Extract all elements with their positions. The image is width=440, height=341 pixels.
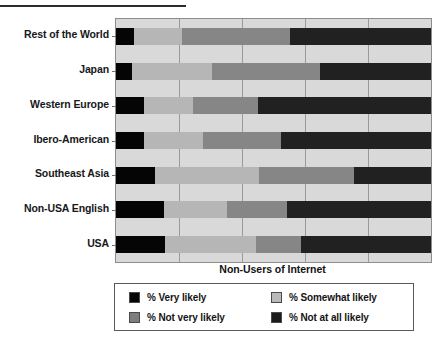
stacked-bar-chart-figure: Rest of the WorldJapanWestern EuropeIber… — [0, 0, 440, 341]
bar-segment — [155, 167, 259, 184]
bar-segment — [116, 132, 144, 149]
legend-label: % Somewhat likely — [289, 292, 377, 303]
bar-segment — [281, 132, 431, 149]
bar-segment — [320, 63, 431, 80]
bar-segment — [116, 97, 144, 114]
bar-segment — [182, 28, 290, 45]
legend-item[interactable]: % Very likely — [129, 292, 271, 303]
bar-segment — [116, 167, 155, 184]
category-label: Ibero-American — [0, 134, 109, 145]
bar — [116, 132, 431, 149]
legend-item[interactable]: % Somewhat likely — [271, 292, 413, 303]
legend-item[interactable]: % Not at all likely — [271, 312, 413, 323]
bar-segment — [116, 28, 134, 45]
legend-swatch-icon — [129, 292, 140, 303]
axis-tick — [112, 106, 116, 107]
axis-tick — [112, 210, 116, 211]
bar — [116, 97, 431, 114]
legend-swatch-icon — [271, 292, 282, 303]
bar-segment — [164, 201, 227, 218]
bar-segment — [116, 201, 164, 218]
bar-segment — [144, 97, 193, 114]
axis-tick — [112, 71, 116, 72]
bar — [116, 201, 431, 218]
bar-segment — [290, 28, 431, 45]
category-label: Rest of the World — [0, 29, 109, 40]
bar-segment — [212, 63, 320, 80]
category-label: Non-USA English — [0, 203, 109, 214]
bar-segment — [259, 167, 354, 184]
bar-segment — [134, 28, 181, 45]
axis-tick — [112, 141, 116, 142]
bar-segment — [116, 63, 132, 80]
bar-segment — [116, 236, 165, 253]
legend-label: % Not at all likely — [289, 312, 369, 323]
axis-tick — [112, 175, 116, 176]
x-axis-title: Non-Users of Internet — [115, 263, 430, 275]
chart-legend: % Very likely% Somewhat likely% Not very… — [114, 283, 414, 331]
category-label: USA — [0, 238, 109, 249]
bar-segment — [227, 201, 287, 218]
legend-swatch-icon — [129, 312, 140, 323]
bar-segment — [144, 132, 203, 149]
legend-swatch-icon — [271, 312, 282, 323]
bar — [116, 28, 431, 45]
bar-segment — [165, 236, 255, 253]
bar — [116, 63, 431, 80]
axis-tick — [112, 245, 116, 246]
bar-segment — [203, 132, 281, 149]
header-rule — [0, 5, 186, 7]
legend-label: % Not very likely — [147, 312, 225, 323]
bar — [116, 167, 431, 184]
legend-item[interactable]: % Not very likely — [129, 312, 271, 323]
bar-segment — [287, 201, 431, 218]
bar-segment — [193, 97, 257, 114]
bar — [116, 236, 431, 253]
bar-segment — [258, 97, 431, 114]
bar-segment — [256, 236, 302, 253]
category-axis-labels: Rest of the WorldJapanWestern EuropeIber… — [0, 18, 109, 261]
bar-segment — [132, 63, 212, 80]
category-label: Japan — [0, 64, 109, 75]
legend-grid: % Very likely% Somewhat likely% Not very… — [115, 284, 413, 330]
legend-label: % Very likely — [147, 292, 206, 303]
category-label: Southeast Asia — [0, 168, 109, 179]
bar-segment — [301, 236, 431, 253]
plot-area — [115, 18, 432, 263]
axis-tick — [112, 36, 116, 37]
category-label: Western Europe — [0, 99, 109, 110]
bar-segment — [354, 167, 431, 184]
